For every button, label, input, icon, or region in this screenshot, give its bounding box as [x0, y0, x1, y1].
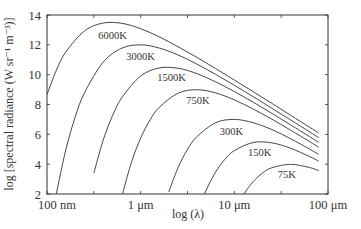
- y-axis-label: log [spectral radiance (W sr⁻¹ m⁻³)]: [2, 17, 16, 190]
- curve-300k: [169, 119, 319, 191]
- x-tick-label: 1 μm: [128, 198, 154, 212]
- blackbody-radiation-chart: 6000K3000K1500K750K300K150K75K 100 nm1 μ…: [0, 0, 361, 229]
- y-tick-label: 2: [35, 188, 41, 202]
- y-tick-label: 12: [29, 38, 42, 52]
- y-tick-label: 6: [35, 128, 41, 142]
- x-tick-label: 100 nm: [38, 198, 76, 212]
- curve-label-75k: 75K: [278, 169, 297, 180]
- y-tick-label: 10: [29, 68, 42, 82]
- x-axis-label: log (λ): [172, 207, 204, 221]
- y-tick-label: 8: [35, 98, 41, 112]
- curve-label-3000k: 3000K: [126, 51, 155, 62]
- x-tick-label: 100 μm: [309, 198, 348, 212]
- curves-group: [47, 22, 319, 214]
- y-tick-label: 14: [29, 9, 42, 23]
- x-tick-label: 10 μm: [218, 198, 250, 212]
- curve-label-300k: 300K: [220, 126, 244, 137]
- curve-label-750k: 750K: [186, 95, 210, 106]
- curve-label-1500k: 1500K: [157, 72, 186, 83]
- curve-label-150k: 150K: [248, 147, 272, 158]
- curve-label-6000k: 6000K: [98, 30, 127, 41]
- y-tick-label: 4: [35, 158, 42, 172]
- curve-1500k: [94, 67, 319, 173]
